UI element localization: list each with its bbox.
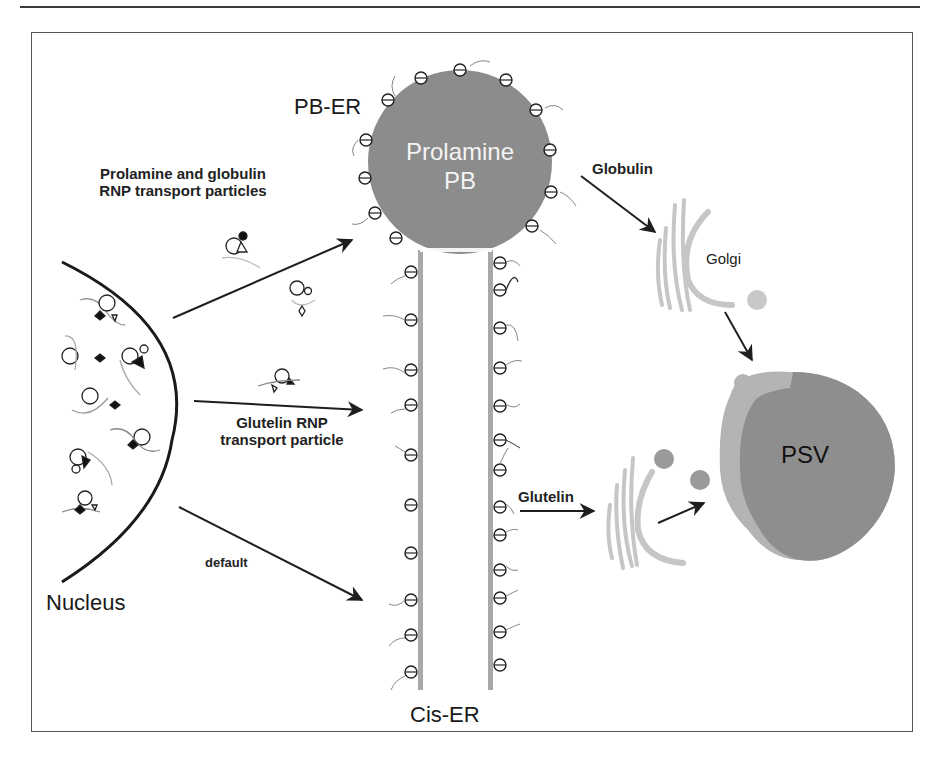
arrow-golgi-psv [725, 312, 752, 360]
arrow-to-pb-er [173, 240, 352, 318]
arrow-globulin-golgi [581, 176, 655, 232]
label-glutelin: Glutelin [518, 488, 574, 505]
golgi-vesicle-upper [747, 290, 767, 310]
label-glutelin-rnp: Glutelin RNP transport particle [192, 414, 372, 449]
diagram-canvas [0, 0, 940, 767]
label-default: default [205, 556, 248, 571]
transport-particles [222, 232, 315, 392]
golgi-vesicle-lower-a [654, 449, 674, 469]
golgi-lower [608, 458, 683, 568]
arrow-to-cis-er-glutelin [194, 401, 362, 410]
arrow-default [179, 507, 362, 600]
label-psv: PSV [781, 441, 829, 469]
label-glutelin-rnp-line2: transport particle [192, 431, 372, 448]
nucleus-particles [62, 295, 160, 514]
arrow-vesicle-psv [658, 503, 704, 523]
golgi-vesicle-lower-b [690, 470, 710, 490]
label-cis-er: Cis-ER [410, 702, 480, 727]
label-prolamine-globulin-rnp: Prolamine and globulin RNP transport par… [68, 165, 298, 200]
label-nucleus: Nucleus [46, 590, 125, 615]
label-prolamine-pb: Prolamine PB [388, 138, 532, 196]
label-golgi: Golgi [706, 250, 741, 267]
nucleus-envelope [62, 262, 177, 582]
label-prolamine-pb-line2: PB [388, 167, 532, 196]
label-globulin: Globulin [592, 160, 653, 177]
label-prolamine-globulin-line1: Prolamine and globulin [68, 165, 298, 182]
label-prolamine-pb-line1: Prolamine [388, 138, 532, 167]
label-glutelin-rnp-line1: Glutelin RNP [192, 414, 372, 431]
cis-er-tube [418, 250, 493, 690]
label-prolamine-globulin-line2: RNP transport particles [68, 182, 298, 199]
label-pb-er: PB-ER [294, 94, 361, 119]
